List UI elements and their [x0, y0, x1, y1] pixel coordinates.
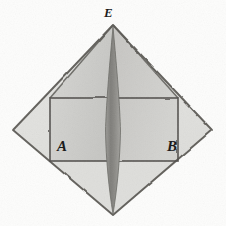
vertex-label-b: B: [167, 139, 177, 154]
vertex-label-a: A: [57, 139, 67, 154]
geometric-figure-canvas: E A B: [0, 0, 226, 226]
vertex-label-e: E: [104, 6, 113, 19]
figure-drawing: [0, 0, 226, 226]
